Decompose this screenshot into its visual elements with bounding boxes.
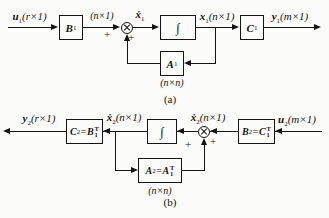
B1-symbol: B	[66, 22, 73, 34]
u2-dims: (m×1)	[288, 113, 316, 125]
A2-symbol: A	[146, 165, 153, 176]
integral-symbol: ∫	[176, 20, 180, 36]
xdot2-dims: (n×1)	[200, 111, 226, 123]
connector-line	[10, 131, 66, 132]
dimension-label-nn: (n×n)	[153, 77, 191, 88]
A1T-symbol: A	[162, 165, 169, 176]
C1T-scripts: T1	[267, 126, 271, 137]
arrowhead-left-icon	[210, 128, 217, 134]
arrowhead-left-icon	[103, 128, 110, 134]
plus-sign: +	[210, 136, 216, 147]
arrowhead-right-icon	[232, 24, 239, 30]
block-diagram-figure: u1(r×1) B1 (n×1) + + ẋ1 ∫ x1(n×1) C1 y1(…	[0, 0, 329, 218]
signal-label-xdot1: ẋ1	[131, 8, 149, 21]
x1-dims: (n×1)	[209, 10, 235, 22]
caption-a: (a)	[152, 93, 188, 105]
C1T-symbol: C	[259, 126, 266, 137]
feedback-up-line	[127, 40, 128, 64]
summing-junction-icon	[198, 126, 210, 138]
integrator-block: ∫	[147, 119, 177, 144]
dimension-label-n1: (n×1)	[85, 10, 119, 21]
arrowhead-right-icon	[131, 167, 138, 173]
summing-junction-icon	[121, 22, 133, 34]
u1-dims: (r×1)	[22, 10, 47, 22]
block-A1: A1	[160, 51, 184, 76]
B1T-symbol: B	[87, 126, 94, 137]
arrowhead-left-icon	[3, 128, 10, 134]
arrowhead-up-icon	[201, 138, 207, 145]
arrowhead-right-icon	[314, 24, 321, 30]
connector-line	[127, 63, 160, 64]
block-C1: C1	[240, 15, 264, 40]
arrowhead-left-icon	[275, 128, 282, 134]
signal-label-x1: x1(n×1)	[196, 10, 238, 23]
feedback-up-line	[204, 144, 205, 171]
arrowhead-left-icon	[177, 128, 184, 134]
signal-label-u2: u2(m×1)	[272, 113, 322, 126]
xdot1-subscript: 1	[141, 15, 145, 23]
signal-label-y1: y1(m×1)	[264, 10, 316, 23]
C1-symbol: C	[247, 22, 254, 34]
dimension-label-nn: (n×n)	[141, 185, 179, 196]
A1T-scripts: T1	[170, 165, 174, 176]
connector-line	[115, 170, 132, 171]
plus-sign: +	[104, 29, 110, 40]
signal-label-y2: y2(r×1)	[14, 112, 64, 125]
connector-line	[133, 27, 153, 28]
connector-line	[191, 63, 216, 64]
signal-label-xdot2: ẋ2(n×1)	[182, 111, 234, 124]
C1T-subscript: 1	[267, 132, 270, 138]
arrowhead-right-icon	[51, 24, 58, 30]
integrator-block: ∫	[160, 15, 196, 40]
x2-dims: (n×1)	[116, 111, 142, 123]
connector-line	[196, 27, 232, 28]
signal-label-u1: u1(r×1)	[6, 10, 53, 23]
y1-dims: (m×1)	[280, 10, 308, 22]
plus-sign: +	[185, 139, 191, 150]
feedback-branch-line	[115, 132, 116, 170]
block-B1: B1	[59, 15, 83, 40]
caption-b: (b)	[152, 196, 188, 208]
arrowhead-up-icon	[124, 34, 130, 41]
signal-label-x2: ẋ2(n×1)	[98, 111, 150, 124]
block-B2-eq-C1T: B2=CT1	[238, 119, 275, 144]
connector-line	[182, 170, 204, 171]
equals-sign: =	[252, 126, 259, 137]
A1-symbol: A	[167, 58, 174, 70]
arrowhead-right-icon	[152, 24, 159, 30]
arrowhead-left-icon	[184, 60, 191, 66]
block-C2-eq-B1T: C2=BT1	[66, 119, 103, 144]
arrowhead-right-icon	[113, 24, 120, 30]
equals-sign: =	[80, 126, 87, 137]
connector-line	[8, 27, 52, 28]
connector-line	[275, 131, 322, 132]
connector-line	[264, 27, 315, 28]
B1T-scripts: T1	[95, 126, 99, 137]
block-A2-eq-A1T: A2=AT1	[138, 158, 182, 183]
A1T-subscript: 1	[170, 171, 173, 177]
feedback-branch-line	[215, 28, 216, 64]
integral-symbol: ∫	[160, 124, 164, 140]
B2-symbol: B	[242, 126, 249, 137]
y2-dims: (r×1)	[31, 112, 56, 124]
C2-symbol: C	[70, 126, 77, 137]
B1T-subscript: 1	[95, 132, 98, 138]
